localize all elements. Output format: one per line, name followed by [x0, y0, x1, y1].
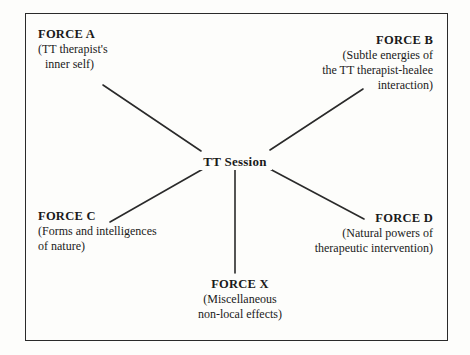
node-force-x-inner: FORCE X (Miscellaneous non-local effects… [155, 277, 325, 322]
node-hub-tt-session: TT Session [0, 151, 470, 171]
node-force-c: FORCE C (Forms and intelligences of natu… [38, 209, 228, 254]
node-force-d-title: FORCE D [233, 211, 433, 226]
node-force-c-description: (Forms and intelligences of nature) [38, 224, 228, 254]
node-force-a-title: FORCE A [38, 27, 198, 42]
node-force-d-description: (Natural powers of therapeutic intervent… [233, 226, 433, 256]
node-force-c-title: FORCE C [38, 209, 228, 224]
node-force-d: FORCE D (Natural powers of therapeutic i… [233, 211, 433, 256]
node-force-b-description: (Subtle energies of the TT therapist-hea… [223, 48, 433, 92]
node-hub-label: TT Session [203, 154, 266, 170]
node-force-b: FORCE B (Subtle energies of the TT thera… [223, 33, 433, 93]
node-force-b-title: FORCE B [223, 33, 433, 48]
node-force-x-description: (Miscellaneous non-local effects) [155, 292, 325, 322]
diagram-canvas: FORCE A (TT therapist's inner self) FORC… [0, 0, 470, 355]
node-force-x-title: FORCE X [155, 277, 325, 292]
node-force-x: FORCE X (Miscellaneous non-local effects… [0, 277, 470, 322]
node-hub-inner: TT Session [198, 154, 271, 170]
node-force-a-description: (TT therapist's inner self) [38, 42, 198, 72]
node-force-a: FORCE A (TT therapist's inner self) [38, 27, 198, 72]
